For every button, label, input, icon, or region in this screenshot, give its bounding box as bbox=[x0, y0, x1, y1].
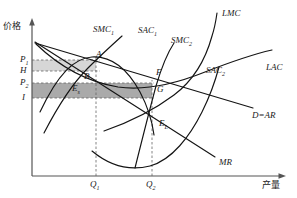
x-tick-q2: Q2 bbox=[146, 180, 156, 191]
curve-mr bbox=[35, 42, 215, 157]
y-tick-i-text: I bbox=[22, 92, 25, 102]
shaded-region-p2-i bbox=[32, 83, 152, 98]
point-label-es: Es bbox=[72, 84, 80, 95]
curve-label-sac2-sub: 2 bbox=[222, 71, 225, 77]
curve-label-smc1: SMC1 bbox=[93, 25, 114, 36]
point-label-b-text: B bbox=[84, 71, 90, 81]
curve-label-lmc: LMC bbox=[222, 9, 241, 20]
curve-label-smc1-text: SMC bbox=[93, 24, 111, 34]
curve-sac2 bbox=[92, 67, 219, 168]
curve-smc2 bbox=[135, 43, 174, 168]
curve-label-d-ar: D=AR bbox=[252, 111, 276, 122]
curve-label-mr-text: MR bbox=[219, 157, 232, 167]
y-axis-arrow bbox=[29, 18, 35, 26]
y-tick-h: H bbox=[20, 66, 27, 77]
y-tick-i: I bbox=[22, 93, 25, 104]
x-axis-arrow bbox=[279, 173, 287, 179]
curve-label-sac2-text: SAC bbox=[206, 65, 222, 75]
x-tick-q1-sub: 1 bbox=[97, 185, 100, 191]
point-label-f: F bbox=[156, 68, 162, 79]
point-label-es-sub: s bbox=[78, 89, 80, 95]
point-label-b: B bbox=[84, 72, 90, 83]
curve-label-mr: MR bbox=[219, 158, 232, 169]
point-label-el-sub: L bbox=[165, 124, 168, 130]
curve-label-smc2-text: SMC bbox=[171, 35, 189, 45]
curve-label-sac2: SAC2 bbox=[206, 66, 225, 77]
dashed-guides bbox=[32, 57, 154, 176]
y-axis-label: 价格 bbox=[3, 22, 21, 31]
y-tick-p2: P2 bbox=[20, 78, 29, 89]
curve-label-smc2-sub: 2 bbox=[189, 41, 192, 47]
x-tick-q1: Q1 bbox=[90, 180, 100, 191]
curve-label-lmc-text: LMC bbox=[222, 8, 241, 18]
x-tick-q2-sub: 2 bbox=[153, 185, 156, 191]
curve-label-smc1-sub: 1 bbox=[111, 30, 114, 36]
point-label-a: A bbox=[96, 50, 102, 61]
point-label-f-text: F bbox=[156, 67, 162, 77]
curve-label-sac1: SAC1 bbox=[138, 26, 157, 37]
curve-label-lac: LAC bbox=[266, 63, 283, 74]
curve-label-d-ar-text: D=AR bbox=[252, 110, 276, 120]
axes-group bbox=[29, 18, 286, 179]
economics-diagram-figure: 价格 产量 P1 H P2 I Q1 Q2 SMC1 SAC1 SMC2 LMC… bbox=[0, 0, 297, 198]
point-label-el: EL bbox=[159, 119, 168, 130]
y-tick-p2-sub: 2 bbox=[26, 83, 29, 89]
curve-label-sac1-sub: 1 bbox=[154, 31, 157, 37]
x-axis-label: 产量 bbox=[262, 181, 280, 190]
point-label-g: G bbox=[157, 85, 164, 96]
curve-label-sac1-text: SAC bbox=[138, 25, 154, 35]
curve-label-lac-text: LAC bbox=[266, 62, 283, 72]
curve-label-smc2: SMC2 bbox=[171, 36, 192, 47]
point-label-g-text: G bbox=[157, 84, 164, 94]
point-label-a-text: A bbox=[96, 49, 102, 59]
y-tick-h-text: H bbox=[20, 65, 27, 75]
